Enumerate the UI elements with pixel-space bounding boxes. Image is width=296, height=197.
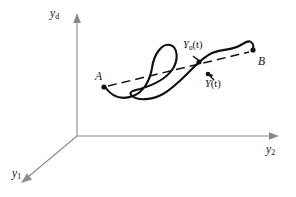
axis-label-y1: y1 bbox=[12, 168, 21, 181]
trajectory-diagram: yd y2 y1 A B Y0(t) Y(t) bbox=[0, 0, 296, 197]
axis-vertical-yd bbox=[73, 13, 81, 136]
axis-label-y2-subscript: 2 bbox=[271, 148, 275, 157]
point-label-y0t: Y0(t) bbox=[183, 40, 203, 52]
point-label-y0t-base: Y bbox=[183, 39, 189, 50]
point-label-yt: Y(t) bbox=[205, 79, 221, 90]
diagram-canvas bbox=[0, 0, 296, 197]
leader-Y0t bbox=[193, 56, 199, 60]
point-label-b: B bbox=[258, 56, 265, 68]
axis-label-y1-subscript: 1 bbox=[17, 172, 21, 181]
point-label-a: A bbox=[95, 71, 102, 83]
axis-depth-y1 bbox=[21, 136, 77, 183]
point-label-y0t-arg: (t) bbox=[193, 39, 203, 50]
axis-horizontal-y2 bbox=[77, 132, 279, 140]
axis-horizontal-arrowhead bbox=[269, 132, 279, 140]
marker-dot-Y0t bbox=[197, 60, 202, 65]
point-label-b-text: B bbox=[258, 55, 265, 67]
point-label-yt-arg: (t) bbox=[211, 78, 221, 89]
point-label-a-text: A bbox=[95, 70, 102, 82]
axis-label-yd-subscript: d bbox=[55, 12, 59, 21]
axis-label-yd: yd bbox=[50, 8, 59, 21]
marker-dot-A bbox=[101, 84, 106, 89]
leader-line-Y0t bbox=[193, 56, 199, 60]
axis-label-y2: y2 bbox=[266, 144, 275, 157]
axis-vertical-arrowhead bbox=[73, 13, 81, 23]
axis-depth-line bbox=[28, 136, 77, 177]
actual-trajectory-solid bbox=[105, 41, 253, 99]
marker-dot-B bbox=[250, 47, 255, 52]
